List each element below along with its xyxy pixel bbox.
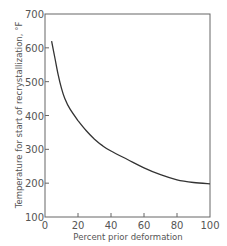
- x-tick-label: 100: [200, 220, 219, 231]
- y-tick-label: 200: [25, 178, 44, 189]
- x-axis-ticks: 020406080100: [42, 213, 220, 231]
- y-tick-label: 500: [25, 77, 44, 88]
- y-tick-label: 100: [25, 212, 44, 223]
- y-tick-label: 600: [25, 43, 44, 54]
- data-curve: [52, 41, 210, 184]
- x-axis-label: Percent prior deformation: [73, 232, 182, 242]
- y-tick-label: 300: [25, 144, 44, 155]
- x-tick-label: 80: [171, 220, 184, 231]
- plot-frame: [45, 14, 210, 217]
- x-tick-label: 20: [72, 220, 85, 231]
- y-tick-label: 700: [25, 9, 44, 20]
- y-tick-label: 400: [25, 111, 44, 122]
- x-tick-label: 40: [105, 220, 118, 231]
- x-tick-label: 60: [138, 220, 151, 231]
- chart-canvas: 020406080100 100200300400500600700 Perce…: [0, 0, 227, 246]
- y-axis-label: Temperature for start of recrystallizati…: [14, 22, 24, 210]
